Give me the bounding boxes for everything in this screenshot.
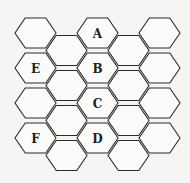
hex-cell (139, 53, 180, 83)
hex-cells (15, 18, 180, 171)
hex-label-c: C (93, 97, 103, 111)
hex-cell (46, 141, 87, 171)
hex-cell (108, 106, 149, 136)
hex-label-e: E (31, 62, 40, 76)
hex-label-b: B (92, 62, 102, 76)
hex-label-f: F (31, 132, 40, 146)
hex-cell (46, 36, 87, 66)
hex-cell (108, 71, 149, 101)
hex-cell (139, 123, 180, 153)
hex-cell (139, 88, 180, 118)
hex-cell (46, 71, 87, 101)
hex-cell (46, 106, 87, 136)
hex-label-a: A (92, 27, 103, 41)
hex-label-d: D (92, 132, 102, 146)
hex-cell (15, 88, 56, 118)
hex-cell (139, 18, 180, 48)
hex-cell (15, 18, 56, 48)
hex-cell (108, 141, 149, 171)
hex-cell (108, 36, 149, 66)
hex-grid-diagram: EFABCD (0, 0, 190, 183)
